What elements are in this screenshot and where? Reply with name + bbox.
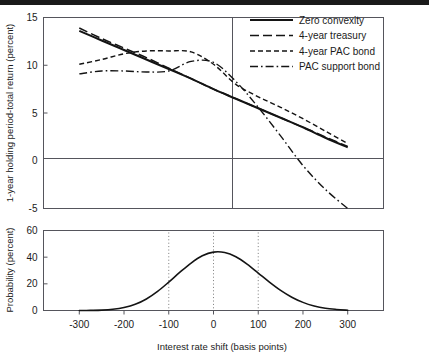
bottom-panel-y-axis-label: Probability (percent) [4, 227, 15, 312]
top-panel-y-tick-labels: 151050-5 [26, 12, 38, 214]
x-tick-label: 0 [211, 319, 217, 330]
x-tick-label: 300 [339, 319, 356, 330]
x-axis-tick-labels: -300-200-1000100200300 [69, 319, 356, 330]
top-panel: 151050-5 [26, 12, 383, 214]
x-tick-label: -200 [114, 319, 134, 330]
y-tick-label: 20 [26, 278, 38, 289]
x-tick-label: -300 [69, 319, 89, 330]
y-tick-label: 0 [32, 155, 38, 166]
legend-label: 4-year PAC bond [299, 46, 375, 57]
x-tick-label: 200 [295, 319, 312, 330]
x-axis-label: Interest rate shift (basis points) [157, 341, 287, 352]
legend-label: Zero convexity [299, 15, 364, 26]
y-tick-label: 0 [32, 305, 38, 316]
x-tick-label: -100 [159, 319, 179, 330]
legend-label: PAC support bond [299, 61, 380, 72]
x-tick-label: 100 [250, 319, 267, 330]
y-tick-label: 40 [26, 252, 38, 263]
y-tick-label: 10 [26, 60, 38, 71]
bottom-panel: 6040200 -300-200-1000100200300 [26, 225, 383, 329]
bottom-panel-y-tick-labels: 6040200 [26, 225, 38, 316]
chart-figure: 151050-5 1-year holding period-total ret… [0, 0, 429, 358]
y-tick-label: -5 [29, 203, 38, 214]
bottom-panel-x-ticks [79, 311, 347, 315]
legend-label: 4-year treasury [299, 30, 366, 41]
y-tick-label: 60 [26, 225, 38, 236]
y-tick-label: 15 [26, 12, 38, 23]
figure-canvas: 151050-5 1-year holding period-total ret… [0, 0, 429, 358]
y-tick-label: 5 [32, 108, 38, 119]
top-panel-y-axis-label: 1-year holding period-total return (perc… [4, 24, 15, 202]
